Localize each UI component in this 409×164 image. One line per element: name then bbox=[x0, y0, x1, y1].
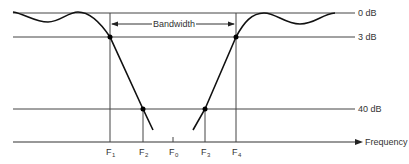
bandwidth-label: Bandwidth bbox=[153, 19, 195, 29]
point-f2-40db bbox=[141, 107, 146, 112]
label-f3-sub: 3 bbox=[207, 152, 211, 158]
bandpass-diagram: Bandwidth 0 dB 3 dB 40 dB Frequency F 1 … bbox=[0, 0, 409, 164]
arrowhead-left-icon bbox=[111, 22, 118, 27]
response-curve-right bbox=[193, 13, 335, 130]
label-frequency: Frequency bbox=[365, 137, 408, 147]
point-f1-3db bbox=[108, 35, 113, 40]
label-40db: 40 dB bbox=[358, 104, 382, 114]
label-f0-sub: 0 bbox=[175, 152, 179, 158]
point-f4-3db bbox=[234, 35, 239, 40]
label-3db: 3 dB bbox=[358, 32, 377, 42]
axis-arrowhead-icon bbox=[355, 139, 363, 145]
arrowhead-right-icon bbox=[228, 22, 235, 27]
label-0db: 0 dB bbox=[358, 8, 377, 18]
label-f2-sub: 2 bbox=[145, 152, 149, 158]
label-f4-sub: 4 bbox=[238, 152, 242, 158]
point-f3-40db bbox=[203, 107, 208, 112]
response-curve-left bbox=[13, 12, 153, 130]
label-f1-sub: 1 bbox=[112, 152, 116, 158]
